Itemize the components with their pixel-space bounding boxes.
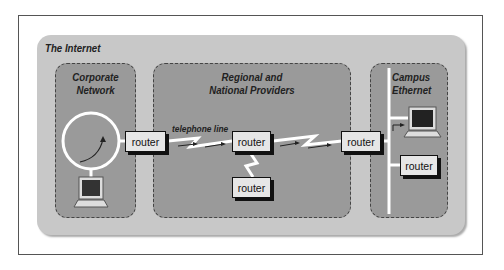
- router-campus: router: [400, 155, 438, 176]
- router-label: router: [238, 182, 265, 194]
- telephone-link-3: [246, 154, 257, 177]
- router-label: router: [238, 136, 265, 148]
- computer-icon-campus: [404, 107, 441, 137]
- telephone-link-1: [168, 138, 232, 147]
- router-label: router: [347, 136, 374, 148]
- token-ring-icon: [63, 113, 119, 169]
- router-label: router: [132, 136, 159, 148]
- computer-icon-corporate: [74, 177, 108, 207]
- router-corporate: router: [125, 131, 166, 152]
- router-label: router: [405, 160, 432, 172]
- telephone-link-2: [273, 136, 342, 148]
- ring-direction-arrow-icon: [80, 139, 103, 162]
- router-regional-2: router: [232, 177, 271, 198]
- router-border: router: [341, 131, 381, 152]
- telephone-line-label: telephone line: [172, 122, 228, 135]
- router-regional-1: router: [232, 131, 271, 152]
